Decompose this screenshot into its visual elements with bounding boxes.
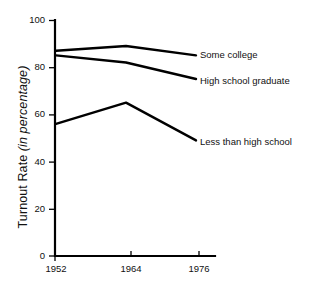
series-label-high-school-graduate: High school graduate bbox=[200, 75, 290, 86]
y-tick-label-100: 100 bbox=[19, 14, 45, 25]
x-tick-label-1952: 1952 bbox=[36, 263, 76, 274]
y-tick-label-40: 40 bbox=[19, 156, 45, 167]
series-line-less-than-high-school bbox=[56, 103, 196, 141]
y-tick-label-80: 80 bbox=[19, 61, 45, 72]
y-tick-label-60: 60 bbox=[19, 108, 45, 119]
y-axis-title: Turnout Rate (in percentage) bbox=[16, 47, 30, 247]
x-tick-label-1976: 1976 bbox=[179, 263, 219, 274]
series-line-high-school-graduate bbox=[56, 55, 196, 79]
series-label-less-than-high-school: Less than high school bbox=[200, 136, 292, 147]
x-tick-label-1964: 1964 bbox=[111, 263, 151, 274]
series-line-some-college bbox=[56, 46, 196, 55]
series-label-some-college: Some college bbox=[200, 49, 258, 60]
turnout-rate-line-chart: Turnout Rate (in percentage) 100 80 60 4… bbox=[0, 0, 309, 287]
y-tick-label-20: 20 bbox=[19, 203, 45, 214]
y-tick-label-0: 0 bbox=[19, 250, 45, 261]
